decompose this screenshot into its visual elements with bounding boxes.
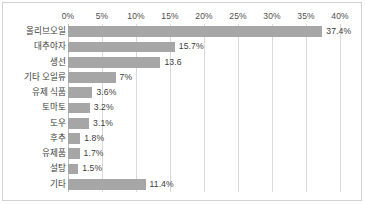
- bar-row: 기타11.4%: [0, 177, 365, 192]
- bar: [68, 26, 322, 37]
- bar-value-label: 13.6: [164, 55, 181, 70]
- bar-value-label: 1.5%: [82, 161, 102, 176]
- x-axis-tick-label: 25%: [229, 10, 246, 22]
- bar-row: 올리브오일37.4%: [0, 24, 365, 39]
- bar: [68, 42, 175, 53]
- bar-row: 유제품1.7%: [0, 146, 365, 161]
- bar: [68, 87, 92, 98]
- bar: [68, 133, 80, 144]
- bar-row: 생선13.6: [0, 55, 365, 70]
- bar: [68, 118, 89, 129]
- bar-row: 대추야자15.7%: [0, 39, 365, 54]
- bar-row: 유제 식품3.6%: [0, 85, 365, 100]
- category-label: 유제 식품: [32, 85, 66, 100]
- bar: [68, 57, 160, 68]
- bar: [68, 103, 90, 114]
- bar-rows: 올리브오일37.4%대추야자15.7%생선13.6기타 오일류7%유제 식품3.…: [0, 24, 365, 192]
- category-label: 도우: [50, 116, 66, 131]
- bar-value-label: 1.7%: [84, 146, 104, 161]
- x-axis-tick-label: 0%: [62, 10, 75, 22]
- category-label: 생선: [50, 55, 66, 70]
- category-label: 대추야자: [34, 39, 66, 54]
- bar-value-label: 3.6%: [96, 85, 116, 100]
- category-label: 기타: [50, 177, 66, 192]
- bar-row: 후추1.8%: [0, 131, 365, 146]
- bar: [68, 72, 116, 83]
- x-axis-tick-labels: 0%5%10%15%20%25%30%35%40%: [0, 10, 365, 22]
- x-axis-tick-label: 20%: [195, 10, 212, 22]
- bar-value-label: 15.7%: [179, 39, 204, 54]
- category-label: 설탕: [50, 161, 66, 176]
- bar-row: 도우3.1%: [0, 116, 365, 131]
- category-label: 유제품: [42, 146, 66, 161]
- bar-chart: 0%5%10%15%20%25%30%35%40% 올리브오일37.4%대추야자…: [0, 0, 365, 204]
- bar-value-label: 1.8%: [84, 131, 104, 146]
- x-axis-tick-label: 5%: [96, 10, 109, 22]
- category-label: 올리브오일: [26, 24, 66, 39]
- x-axis-tick-label: 40%: [331, 10, 348, 22]
- category-label: 토마토: [42, 100, 66, 115]
- bar-value-label: 37.4%: [326, 24, 351, 39]
- category-label: 기타 오일류: [24, 70, 66, 85]
- bar-value-label: 11.4%: [150, 177, 174, 192]
- bar-value-label: 3.2%: [94, 100, 114, 115]
- bar-row: 토마토3.2%: [0, 100, 365, 115]
- bar-value-label: 3.1%: [93, 116, 113, 131]
- category-label: 후추: [50, 131, 66, 146]
- x-axis-tick-label: 10%: [127, 10, 144, 22]
- bar: [68, 148, 80, 159]
- bar-row: 기타 오일류7%: [0, 70, 365, 85]
- bar-value-label: 7%: [120, 70, 133, 85]
- bar: [68, 179, 146, 190]
- x-axis-tick-label: 30%: [263, 10, 280, 22]
- x-axis-tick-label: 15%: [161, 10, 178, 22]
- bar: [68, 164, 78, 175]
- bar-row: 설탕1.5%: [0, 161, 365, 176]
- x-axis-tick-label: 35%: [297, 10, 314, 22]
